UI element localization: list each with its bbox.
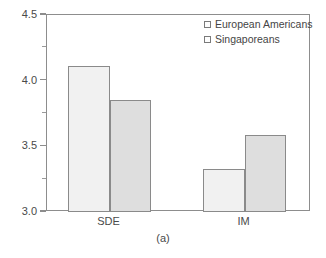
legend: European AmericansSingaporeans — [200, 14, 314, 49]
legend-item: European Americans — [204, 17, 312, 31]
legend-label: Singaporeans — [215, 33, 280, 45]
bar-chart-figure: 3.03.54.04.5 SDEIM European AmericansSin… — [0, 0, 326, 258]
y-axis-tick-label: 4.5 — [22, 6, 37, 22]
bar-sde-european-americans — [68, 66, 110, 212]
bar-im-european-americans — [203, 169, 245, 212]
legend-swatch-singaporeans — [204, 36, 211, 43]
legend-item: Singaporeans — [204, 32, 312, 46]
bar-sde-singaporeans — [110, 100, 152, 212]
y-axis-tick-label: 3.0 — [22, 203, 37, 219]
x-axis-label-sde: SDE — [69, 214, 149, 228]
x-axis-label-im: IM — [204, 214, 284, 228]
legend-label: European Americans — [215, 18, 312, 30]
legend-swatch-european-americans — [204, 21, 211, 28]
y-axis-tick-label: 3.5 — [22, 137, 37, 153]
y-axis: 3.03.54.04.5 — [0, 0, 46, 225]
figure-caption: (a) — [0, 232, 326, 244]
bar-im-singaporeans — [245, 135, 287, 212]
y-axis-tick-label: 4.0 — [22, 72, 37, 88]
